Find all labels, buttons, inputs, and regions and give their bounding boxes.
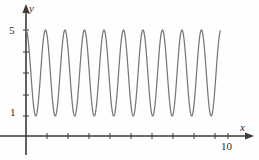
x-axis-arrowhead xyxy=(245,132,254,139)
x-tick-label-10: 10 xyxy=(221,141,232,152)
y-tick-label-1: 1 xyxy=(10,107,16,118)
y-tick-label-5: 5 xyxy=(9,25,15,36)
y-axis-label: y xyxy=(29,3,34,14)
x-axis-label: x xyxy=(240,122,245,133)
sinusoid-curve xyxy=(26,30,220,116)
plot-figure: 5 1 10 y x xyxy=(0,0,259,160)
plot-canvas xyxy=(0,0,259,160)
